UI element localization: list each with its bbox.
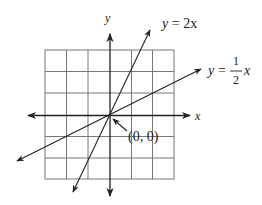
- svg-text:2: 2: [233, 73, 239, 87]
- line-y-equals-2x: [73, 30, 150, 192]
- svg-text:=: =: [218, 63, 226, 78]
- coordinate-plane-diagram: y x y = 2x y = 1 2 x (0, 0): [0, 0, 262, 205]
- svg-text:x: x: [243, 63, 251, 78]
- label-y-equals-2x: y = 2x: [160, 16, 197, 31]
- origin-pointer-arrow: [113, 119, 127, 131]
- y-axis-label: y: [104, 11, 111, 25]
- origin-label: (0, 0): [128, 129, 159, 145]
- label-y-equals-half-x: y = 1 2 x: [206, 54, 251, 87]
- svg-text:1: 1: [233, 54, 239, 68]
- x-axis-label: x: [194, 109, 201, 123]
- svg-text:y: y: [206, 63, 215, 78]
